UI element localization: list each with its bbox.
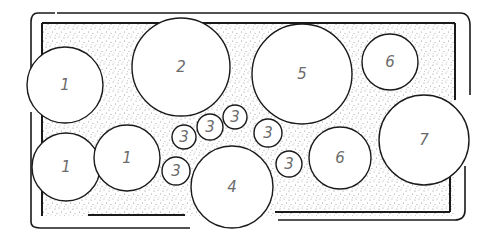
plant-3-marker: 3 — [197, 114, 223, 140]
plant-6-marker: 6 — [309, 127, 371, 189]
plant-1-marker: 1 — [32, 133, 100, 201]
plant-number-label: 3 — [230, 108, 240, 126]
plant-number-label: 5 — [297, 65, 307, 83]
plant-4-marker: 4 — [191, 146, 273, 228]
plant-3-marker: 3 — [276, 151, 302, 177]
plant-number-label: 3 — [179, 128, 189, 146]
plant-7-marker: 7 — [379, 95, 469, 185]
plant-number-label: 3 — [171, 162, 181, 180]
planting-plan-diagram: 125676411333333 — [0, 0, 493, 242]
plant-1-marker: 1 — [27, 47, 103, 123]
plant-number-label: 1 — [60, 76, 70, 94]
plant-2-marker: 2 — [132, 18, 230, 116]
plant-number-label: 6 — [335, 149, 345, 167]
plant-number-label: 3 — [284, 155, 294, 173]
plant-number-label: 6 — [385, 53, 395, 71]
plant-number-label: 2 — [176, 58, 186, 76]
plant-1-marker: 1 — [94, 125, 160, 191]
plant-number-label: 3 — [263, 124, 273, 142]
plant-3-marker: 3 — [254, 119, 282, 147]
plant-3-marker: 3 — [162, 157, 190, 185]
plant-6-marker: 6 — [362, 34, 418, 90]
plant-number-label: 1 — [61, 158, 71, 176]
plant-3-marker: 3 — [223, 105, 247, 129]
plant-5-marker: 5 — [252, 24, 352, 124]
plant-number-label: 3 — [205, 118, 215, 136]
plant-number-label: 4 — [227, 178, 237, 196]
plant-3-marker: 3 — [172, 125, 196, 149]
plant-number-label: 1 — [122, 149, 132, 167]
plant-number-label: 7 — [419, 131, 429, 149]
